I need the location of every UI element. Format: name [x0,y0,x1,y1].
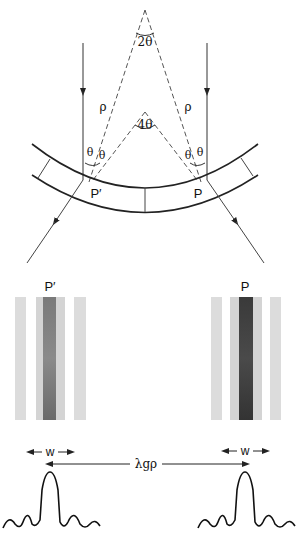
stripe-left-label: P′ [44,279,56,294]
radius-left-label: ρ [99,100,106,114]
intensity-profiles [3,472,295,528]
stripe-pattern-left [15,297,86,420]
stripe-pattern-right [211,297,281,420]
inner-angle-label: 4θ [138,118,153,132]
radius-right-label: ρ [184,100,191,114]
stripe-right-label: P [241,279,250,294]
theta-label: θ [197,146,204,159]
theta-label: θ [99,149,106,162]
point-left-label: P′ [90,186,102,201]
width-left-label: w [45,445,55,459]
diagram-canvas: 2θ 4θ ρ ρ θ θ θ θ P′ P P′ P w w λgρ [0,0,305,535]
theta-label: θ [87,146,94,159]
width-right-label: w [240,444,250,458]
apex-angle-label: 2θ [138,35,153,49]
crystal-ticks [38,158,253,212]
theta-label: θ [185,149,192,162]
point-right-label: P [194,186,203,201]
separation-label: λgρ [135,457,157,471]
